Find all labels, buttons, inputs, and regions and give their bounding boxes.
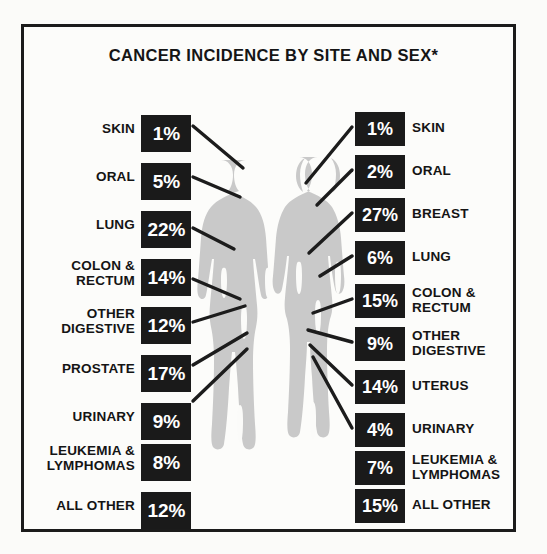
site-label-colon-rectum-female: COLON & RECTUM	[412, 286, 476, 315]
site-label-oral-female: ORAL	[412, 164, 451, 179]
site-label-prostate-male: PROSTATE	[62, 362, 135, 377]
value-box-colon-rectum-male: 14%	[141, 259, 191, 296]
page-title: CANCER INCIDENCE BY SITE AND SEX*	[0, 46, 547, 65]
site-label-other-digestive-female: OTHER DIGESTIVE	[412, 329, 486, 358]
value-box-other-digestive-female: 9%	[355, 327, 405, 361]
value-box-other-digestive-male: 12%	[141, 307, 191, 344]
value-box-breast-female: 27%	[355, 198, 405, 232]
site-label-other-digestive-male: OTHER DIGESTIVE	[61, 307, 135, 336]
site-label-all-other-male: ALL OTHER	[56, 499, 135, 514]
site-label-urinary-female: URINARY	[412, 422, 474, 437]
site-label-lung-male: LUNG	[96, 218, 135, 233]
value-box-leukemia-lymphomas-female: 7%	[355, 451, 405, 485]
value-box-lung-male: 22%	[141, 211, 191, 248]
value-box-colon-rectum-female: 15%	[355, 284, 405, 318]
site-label-breast-female: BREAST	[412, 207, 469, 222]
value-box-urinary-male: 9%	[141, 403, 191, 440]
value-box-urinary-female: 4%	[355, 413, 405, 447]
value-box-oral-male: 5%	[141, 163, 191, 200]
value-box-skin-female: 1%	[355, 112, 405, 146]
site-label-leukemia-lymphomas-male: LEUKEMIA & LYMPHOMAS	[47, 444, 135, 473]
site-label-leukemia-lymphomas-female: LEUKEMIA & LYMPHOMAS	[412, 453, 500, 482]
site-label-skin-male: SKIN	[102, 122, 135, 137]
site-label-oral-male: ORAL	[96, 170, 135, 185]
site-label-lung-female: LUNG	[412, 250, 451, 265]
site-label-all-other-female: ALL OTHER	[412, 498, 491, 513]
value-box-uterus-female: 14%	[355, 370, 405, 404]
value-box-leukemia-lymphomas-male: 8%	[141, 444, 191, 481]
site-label-urinary-male: URINARY	[73, 410, 135, 425]
value-box-oral-female: 2%	[355, 155, 405, 189]
value-box-all-other-female: 15%	[355, 489, 405, 523]
poster-root: CANCER INCIDENCE BY SITE AND SEX*	[0, 0, 547, 554]
value-box-lung-female: 6%	[355, 241, 405, 275]
site-label-colon-rectum-male: COLON & RECTUM	[71, 259, 135, 288]
value-box-all-other-male: 12%	[141, 492, 191, 529]
site-label-uterus-female: UTERUS	[412, 379, 469, 394]
value-box-skin-male: 1%	[141, 115, 191, 152]
site-label-skin-female: SKIN	[412, 121, 445, 136]
value-box-prostate-male: 17%	[141, 355, 191, 392]
